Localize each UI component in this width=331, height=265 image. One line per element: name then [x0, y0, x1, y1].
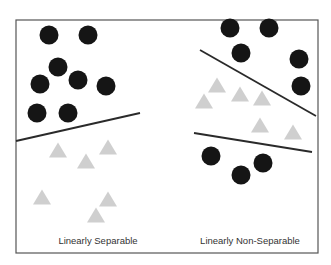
circle-point [97, 77, 116, 96]
triangle-point [99, 192, 117, 207]
triangle-point [33, 190, 51, 205]
circle-point [202, 147, 221, 166]
circle-point [221, 19, 240, 38]
triangle-point [284, 125, 302, 140]
triangle-point [99, 140, 117, 155]
circle-point [49, 58, 68, 77]
circle-point [232, 166, 251, 185]
triangle-point [251, 118, 269, 133]
circle-point [28, 104, 47, 123]
circle-point [31, 75, 50, 94]
separability-diagram: Linearly SeparableLinearly Non-Separable [0, 0, 331, 265]
panel-linearly-non-separable: Linearly Non-Separable [194, 19, 316, 247]
circle-point [69, 71, 88, 90]
panel-caption: Linearly Separable [58, 235, 137, 246]
circle-point [79, 26, 98, 45]
panel-linearly-separable: Linearly Separable [16, 26, 140, 247]
circle-point [254, 154, 273, 173]
triangle-point [253, 91, 271, 106]
triangle-point [195, 94, 213, 109]
circle-point [290, 50, 309, 69]
circle-point [59, 104, 78, 123]
circle-point [40, 26, 59, 45]
triangle-point [77, 154, 95, 169]
circle-point [292, 77, 311, 96]
triangle-point [87, 208, 105, 223]
panel-caption: Linearly Non-Separable [200, 235, 300, 246]
triangle-point [49, 143, 67, 158]
circle-point [232, 44, 251, 63]
triangle-point [231, 87, 249, 102]
diagram-frame [16, 20, 318, 253]
triangle-point [208, 78, 226, 93]
circle-point [260, 19, 279, 38]
